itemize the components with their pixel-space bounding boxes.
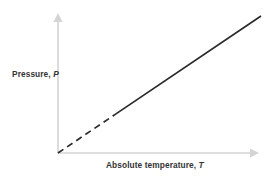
y-axis-arrowhead xyxy=(53,13,62,22)
y-axis-label: Pressure, P xyxy=(12,70,59,78)
y-axis-label-symbol: P xyxy=(53,69,59,79)
data-line-solid-segment xyxy=(113,16,261,116)
plot-area xyxy=(0,0,270,179)
y-axis-label-text: Pressure, xyxy=(12,69,53,79)
pressure-temperature-graph: Pressure, P Absolute temperature, T xyxy=(0,0,270,179)
data-line-dashed-segment xyxy=(58,115,114,153)
x-axis-arrowhead xyxy=(250,148,259,157)
x-axis-label-text: Absolute temperature, xyxy=(106,160,199,170)
x-axis-label: Absolute temperature, T xyxy=(106,161,204,169)
x-axis-label-symbol: T xyxy=(199,160,204,170)
